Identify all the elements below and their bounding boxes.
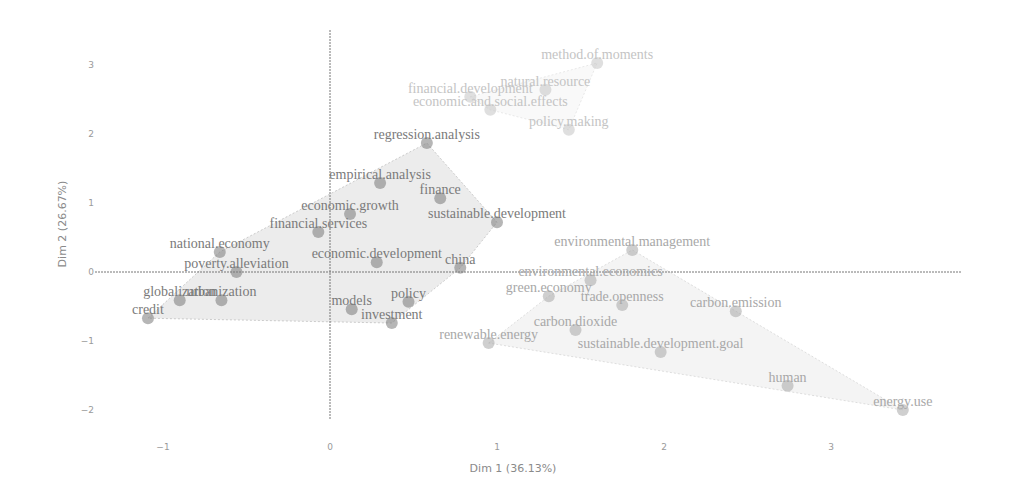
x-tick-label: 3 xyxy=(828,442,834,452)
point-label: poverty.alleviation xyxy=(184,256,288,271)
point-label: trade.openness xyxy=(581,289,664,304)
point-label: credit xyxy=(132,302,164,317)
x-axis-ticks: −10123 xyxy=(156,442,834,452)
point-label: national.economy xyxy=(170,236,270,251)
point-label: regression.analysis xyxy=(374,127,480,142)
point-label: green.economy xyxy=(506,280,592,295)
point-label: natural.resource xyxy=(501,74,591,89)
point-label: economic.and.social.effects xyxy=(413,94,568,109)
x-tick-label: 0 xyxy=(327,442,333,452)
x-axis-title: Dim 1 (36.13%) xyxy=(470,462,557,475)
point-label: sustainable.development.goal xyxy=(578,336,744,351)
point-label: environmental.economics xyxy=(518,264,662,279)
point-label: energy.use xyxy=(873,394,932,409)
y-tick-label: 0 xyxy=(88,267,94,277)
x-tick-label: 2 xyxy=(661,442,667,452)
point-labels: creditglobalizationurbanizationpoverty.a… xyxy=(132,47,932,409)
y-axis-title: Dim 2 (26.67%) xyxy=(56,181,69,268)
point-label: empirical.analysis xyxy=(329,167,430,182)
cluster-plot: −10123 −2−10123 Dim 1 (36.13%) Dim 2 (26… xyxy=(0,0,1011,499)
point-label: finance xyxy=(420,182,461,197)
y-axis-ticks: −2−10123 xyxy=(81,60,95,415)
point-label: carbon.emission xyxy=(690,295,781,310)
point-label: sustainable.development xyxy=(428,206,566,221)
y-tick-label: −1 xyxy=(81,336,94,346)
point-label: economic.growth xyxy=(301,198,399,213)
y-tick-label: 2 xyxy=(88,129,94,139)
y-tick-label: 3 xyxy=(88,60,94,70)
y-tick-label: −2 xyxy=(81,405,94,415)
point-label: human xyxy=(769,370,807,385)
point-label: financial.services xyxy=(270,216,368,231)
x-tick-label: 1 xyxy=(494,442,500,452)
point-label: carbon.dioxide xyxy=(534,314,618,329)
point-label: models xyxy=(331,293,371,308)
point-label: economic.development xyxy=(312,246,442,261)
point-label: urbanization xyxy=(186,284,256,299)
x-tick-label: −1 xyxy=(156,442,169,452)
point-label: method.of.moments xyxy=(541,47,653,62)
point-label: policy.making xyxy=(529,114,609,129)
point-label: china xyxy=(445,252,476,267)
point-label: renewable.energy xyxy=(439,327,538,342)
point-label: environmental.management xyxy=(554,234,710,249)
point-label: policy xyxy=(391,286,426,301)
point-label: investment xyxy=(361,307,423,322)
y-tick-label: 1 xyxy=(88,198,94,208)
